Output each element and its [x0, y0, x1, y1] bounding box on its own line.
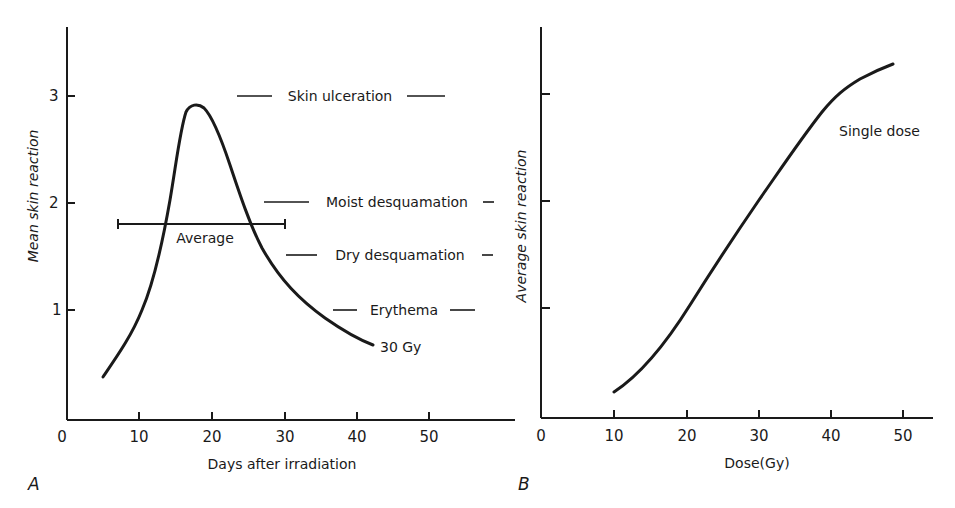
annotation-dry-desquamation: Dry desquamation: [335, 247, 464, 263]
annotation-average: Average: [176, 230, 234, 246]
x-tick-label: 30: [275, 428, 294, 446]
y-tick-label: 3: [49, 87, 59, 105]
x-tick-label: 20: [202, 428, 221, 446]
x-tick-label: 50: [419, 428, 438, 446]
annotation-erythema: Erythema: [370, 302, 438, 318]
y-tick-label: 2: [49, 194, 59, 212]
x-tick-label: 50: [893, 427, 912, 445]
panel-b: [541, 27, 933, 418]
x-tick-label: 20: [677, 427, 696, 445]
panel-b-x-axis-title: Dose(Gy): [724, 455, 789, 471]
x-tick-label: 40: [347, 428, 366, 446]
panel-a-label: A: [27, 474, 40, 494]
y-tick-label: 1: [52, 301, 62, 319]
annotation-single-dose: Single dose: [839, 123, 920, 139]
annotation-30gy: 30 Gy: [380, 339, 421, 355]
annotation-skin-ulceration: Skin ulceration: [288, 88, 392, 104]
panel-b-y-axis-title: Average skin reaction: [513, 150, 529, 304]
x-tick-label: 40: [821, 427, 840, 445]
x-tick-label: 10: [129, 428, 148, 446]
panel-a-labels: 3 2 1 0 10 20 30 40 50 Days after irradi…: [25, 87, 468, 494]
panel-a-x-axis-title: Days after irradiation: [208, 456, 357, 472]
x-tick-label: 30: [749, 427, 768, 445]
panel-b-label: B: [518, 474, 530, 494]
panel-a-curve-30gy: [103, 105, 373, 377]
panel-b-labels: 0 10 20 30 40 50 Dose(Gy) Average skin r…: [513, 123, 920, 494]
figure: 3 2 1 0 10 20 30 40 50 Days after irradi…: [0, 0, 955, 508]
annotation-moist-desquamation: Moist desquamation: [326, 194, 468, 210]
panel-a-y-axis-title: Mean skin reaction: [25, 130, 41, 263]
x-tick-label: 10: [604, 427, 623, 445]
panel-a: [67, 27, 515, 420]
x-tick-label: 0: [536, 427, 546, 445]
x-tick-label: 0: [57, 428, 67, 446]
panel-b-curve-single-dose: [614, 64, 893, 392]
